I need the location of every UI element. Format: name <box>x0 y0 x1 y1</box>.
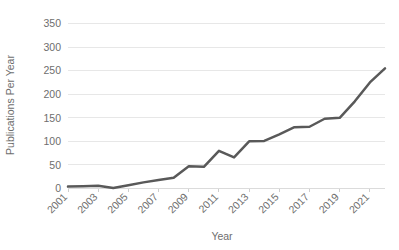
y-axis-tick-label: 50 <box>49 159 61 171</box>
y-axis-tick-labels: 050100150200250300350 <box>43 17 61 194</box>
publications-per-year-line-chart: 050100150200250300350 200120032005200720… <box>0 0 399 250</box>
x-axis-tick-label: 2019 <box>316 190 341 215</box>
gridline-group <box>68 24 385 189</box>
x-axis-tick-label: 2017 <box>286 190 311 215</box>
x-axis-tick-label: 2007 <box>135 190 160 215</box>
x-axis-title: Year <box>211 230 233 242</box>
y-axis-tick-label: 350 <box>43 17 61 29</box>
x-axis-tick-label: 2011 <box>196 190 221 215</box>
y-axis-tick-label: 100 <box>43 135 61 147</box>
x-axis-tick-label: 2003 <box>75 190 100 215</box>
x-axis-tick-labels: 2001200320052007200920112013201520172019… <box>44 190 371 215</box>
x-axis-tick-label: 2013 <box>226 190 251 215</box>
chart-canvas: 050100150200250300350 200120032005200720… <box>0 0 399 250</box>
y-axis-title: Publications Per Year <box>4 55 16 155</box>
y-axis-tick-label: 150 <box>43 112 61 124</box>
x-axis-tick-label: 2001 <box>44 190 69 215</box>
x-axis-tick-label: 2009 <box>165 190 190 215</box>
y-axis-tick-label: 300 <box>43 41 61 53</box>
x-axis-tick-label: 2005 <box>105 190 130 215</box>
data-series-line <box>68 68 385 188</box>
x-axis-tick-label: 2015 <box>256 190 281 215</box>
x-axis-tick-label: 2021 <box>346 190 371 215</box>
y-axis-tick-label: 250 <box>43 64 61 76</box>
y-axis-tick-label: 200 <box>43 88 61 100</box>
